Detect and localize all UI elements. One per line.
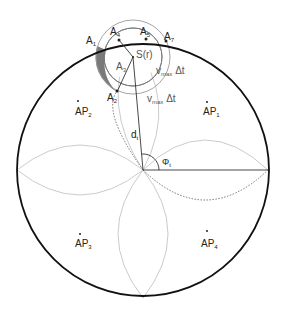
label-a4: A4	[110, 27, 120, 38]
dotted-petal	[113, 90, 268, 200]
label-a3: A3	[116, 62, 126, 73]
label-ap2: AP2	[75, 107, 92, 118]
label-a1: A1	[86, 36, 96, 47]
label-a5: A5	[140, 27, 150, 38]
label-phi: Φt	[162, 158, 171, 168]
label-a7: A7	[164, 32, 174, 43]
label-vmax-inner: vmax Δt	[156, 66, 185, 77]
coverage-diagram	[0, 0, 281, 317]
label-ap1: AP1	[203, 107, 220, 118]
label-s: S(r)	[136, 50, 153, 60]
label-dt: dt	[131, 130, 138, 141]
label-ap3: AP3	[75, 239, 92, 250]
label-a2: A2	[107, 93, 117, 104]
petal-down	[118, 170, 168, 298]
label-vmax-outer: vmax Δt	[147, 94, 176, 105]
label-ap4: AP4	[201, 239, 218, 250]
petal-left	[17, 145, 143, 195]
